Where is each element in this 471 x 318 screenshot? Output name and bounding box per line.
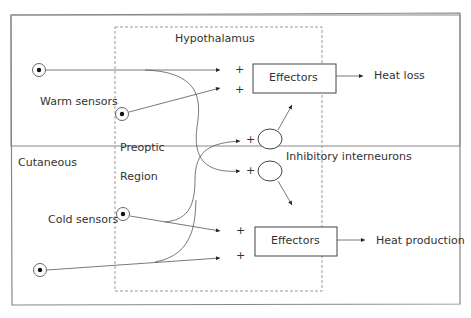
effectors-top-label: Effectors bbox=[269, 72, 318, 83]
plus-sign: + bbox=[235, 64, 244, 75]
plus-sign: + bbox=[236, 250, 245, 261]
sensor-top-left bbox=[33, 64, 46, 77]
preoptic-label: Preoptic bbox=[120, 142, 165, 153]
heat-production-label: Heat production bbox=[376, 235, 465, 246]
sensor-warm bbox=[116, 108, 129, 121]
plus-sign: + bbox=[235, 84, 244, 95]
inhibitory-interneurons-label: Inhibitory interneurons bbox=[286, 151, 412, 162]
warm-sensors-label: Warm sensors bbox=[40, 96, 118, 107]
region-label: Region bbox=[120, 171, 158, 182]
interneuron-bottom bbox=[258, 161, 282, 181]
plus-sign: + bbox=[246, 165, 255, 176]
cutaneous-label: Cutaneous bbox=[18, 157, 77, 168]
cold-sensors-label: Cold sensors bbox=[48, 214, 118, 225]
sensor-cold bbox=[117, 208, 130, 221]
heat-loss-label: Heat loss bbox=[374, 70, 425, 81]
hypothalamus-label: Hypothalamus bbox=[175, 33, 255, 44]
effectors-bottom-label: Effectors bbox=[271, 235, 320, 246]
interneuron-top bbox=[258, 129, 282, 149]
plus-sign: + bbox=[246, 134, 255, 145]
plus-sign: + bbox=[236, 225, 245, 236]
sensor-bottom-left bbox=[34, 264, 47, 277]
